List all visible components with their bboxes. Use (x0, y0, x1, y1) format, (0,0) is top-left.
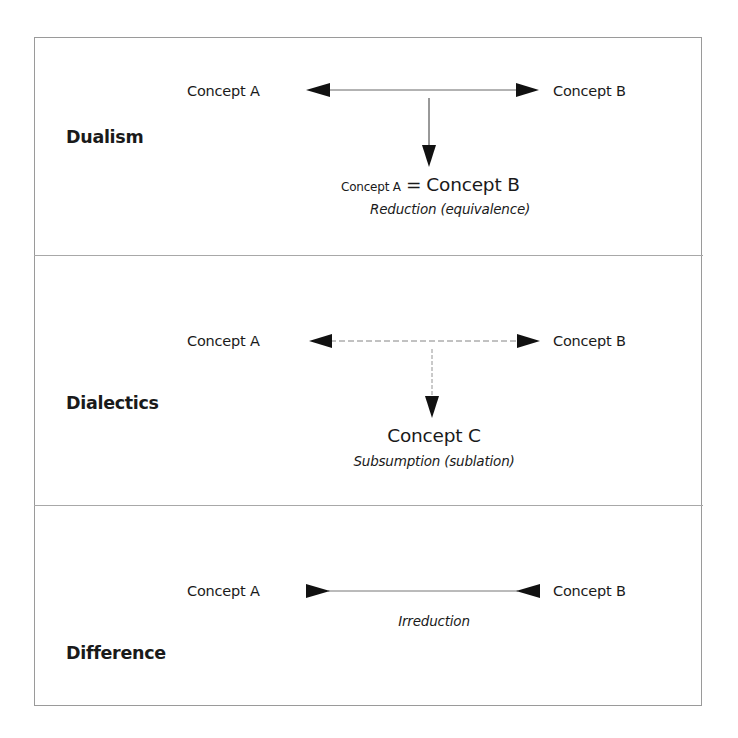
section-label-dialectics: Dialectics (66, 395, 159, 413)
dualism-caption: Reduction (equivalence) (370, 203, 530, 217)
left-arrowhead-icon (309, 334, 332, 348)
dialectics-concept-b: Concept B (553, 334, 626, 349)
dualism-result: Concept A = Concept B (341, 176, 520, 195)
dualism-concept-a: Concept A (187, 84, 260, 99)
result-operator: = (406, 174, 421, 195)
dialectics-result-concept-c: Concept C (387, 427, 481, 446)
dualism-arrows (306, 83, 539, 167)
right-arrowhead-icon (517, 334, 540, 348)
left-inward-arrowhead-icon (306, 584, 330, 598)
section-label-difference: Difference (66, 645, 166, 663)
right-inward-arrowhead-icon (516, 584, 540, 598)
right-arrowhead-icon (516, 83, 539, 97)
dialectics-caption: Subsumption (sublation) (353, 455, 514, 469)
difference-concept-a: Concept A (187, 584, 260, 599)
section-label-dualism: Dualism (66, 129, 143, 147)
difference-arrows (306, 584, 540, 598)
left-arrowhead-icon (306, 83, 330, 97)
down-arrowhead-icon (422, 145, 436, 167)
dualism-concept-b: Concept B (553, 84, 626, 99)
difference-concept-b: Concept B (553, 584, 626, 599)
result-large-concept: Concept B (426, 174, 519, 195)
dialectics-arrows (309, 334, 540, 418)
result-small-concept: Concept A (341, 180, 401, 194)
down-arrowhead-icon (425, 396, 439, 418)
difference-caption: Irreduction (398, 615, 470, 629)
dialectics-concept-a: Concept A (187, 334, 260, 349)
arrows-layer (0, 0, 738, 738)
